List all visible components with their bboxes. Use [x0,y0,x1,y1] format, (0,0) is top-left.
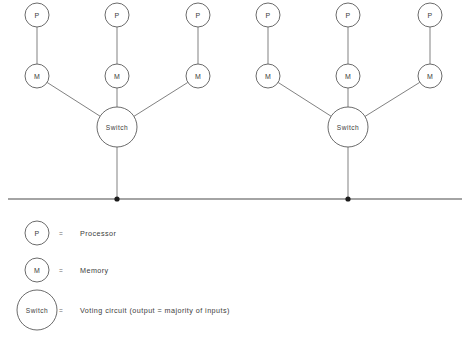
left-cluster-switch-label: Switch [106,124,128,131]
right-cluster-branch-1-memory-switch-link [278,82,331,116]
nodes-group: PMPMPMSwitchPMPMPMSwitch [25,3,442,147]
right-cluster-branch-1-processor-label: P [265,12,270,19]
legend-row-memory-equals-sign: = [59,267,63,274]
legend-row-memory-symbol-label: M [34,267,40,274]
left-cluster-branch-1-memory-label: M [34,73,40,80]
connector-lines-group [37,27,430,199]
left-cluster-branch-3-processor-label: P [195,12,200,19]
legend-row-switch-symbol-label: Switch [26,307,48,314]
legend-row-processor-equals-sign: = [59,230,63,237]
legend-row-processor-description: Processor [80,229,117,238]
left-cluster-branch-2-processor-label: P [114,12,119,19]
right-cluster-branch-2-memory-label: M [345,73,351,80]
right-cluster-branch-1-memory-label: M [265,73,271,80]
left-cluster-branch-2-memory-label: M [114,73,120,80]
legend-group: P=ProcessorM=MemorySwitch=Voting circuit… [17,221,230,330]
legend-row-memory-description: Memory [80,266,109,275]
left-cluster-branch-3-memory-switch-link [134,82,188,116]
left-cluster-branch-1-memory-switch-link [47,82,100,116]
legend-row-switch-equals-sign: = [59,307,63,314]
left-cluster-branch-1-processor-label: P [34,12,39,19]
right-cluster-switch-label: Switch [337,124,359,131]
right-cluster-branch-3-memory-label: M [427,73,433,80]
system-bus-group [8,196,462,201]
left-cluster-branch-3-memory-label: M [195,73,201,80]
right-cluster-branch-3-memory-switch-link [365,82,420,116]
diagram-canvas: PMPMPMSwitchPMPMPMSwitch P=ProcessorM=Me… [0,0,469,339]
right-cluster-branch-2-processor-label: P [345,12,350,19]
legend-row-processor-symbol-label: P [34,230,39,237]
legend-row-switch-description: Voting circuit (output = majority of inp… [80,306,230,315]
right-cluster-branch-3-processor-label: P [427,12,432,19]
diagram-svg: PMPMPMSwitchPMPMPMSwitch P=ProcessorM=Me… [0,0,469,339]
left-cluster-bus-junction-dot [114,196,119,201]
right-cluster-bus-junction-dot [345,196,350,201]
